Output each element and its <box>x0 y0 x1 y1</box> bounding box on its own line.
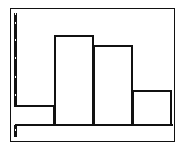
histogram-bar <box>54 35 94 125</box>
y-tick <box>15 57 16 59</box>
y-tick <box>15 22 16 24</box>
histogram-bar <box>132 90 172 125</box>
y-tick <box>15 13 16 15</box>
y-tick <box>15 94 16 96</box>
y-tick <box>15 129 16 131</box>
histogram-bar <box>93 45 133 125</box>
y-tick <box>15 76 16 78</box>
x-axis <box>15 124 173 126</box>
histogram-bar <box>14 105 55 125</box>
y-tick <box>15 39 16 41</box>
